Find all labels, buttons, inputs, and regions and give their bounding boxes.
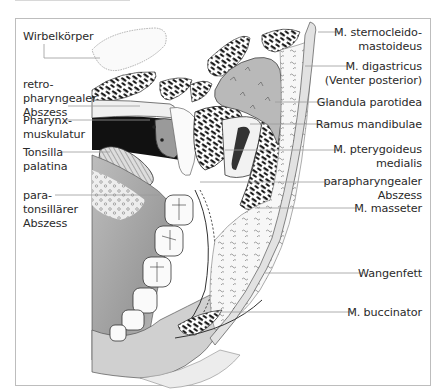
label-m-buccinator: M. buccinator xyxy=(347,306,422,320)
label-wirbelkoerper: Wirbelkörper xyxy=(23,30,94,44)
label-m-pterygoideus-medialis: M. pterygoideus medialis xyxy=(333,143,422,171)
label-m-digastricus: M. digastricus (Venter posterior) xyxy=(325,60,422,88)
label-pharynxmuskulatur: Pharynx- muskulatur xyxy=(23,114,85,142)
label-parapharyngealer-abszess: parapharyngealer Abszess xyxy=(323,175,422,203)
label-wangenfett: Wangenfett xyxy=(358,267,422,281)
label-m-masseter: M. masseter xyxy=(354,202,422,216)
label-glandula-parotidea: Glandula parotidea xyxy=(317,96,422,110)
label-m-sternocleidomastoideus: M. sternocleido- mastoideus xyxy=(334,26,422,54)
label-paratonsillaerer-abszess: para- tonsillärer Abszess xyxy=(23,189,78,231)
label-ramus-mandibulae: Ramus mandibulae xyxy=(316,118,422,132)
label-tonsilla-palatina: Tonsilla palatina xyxy=(23,146,68,174)
